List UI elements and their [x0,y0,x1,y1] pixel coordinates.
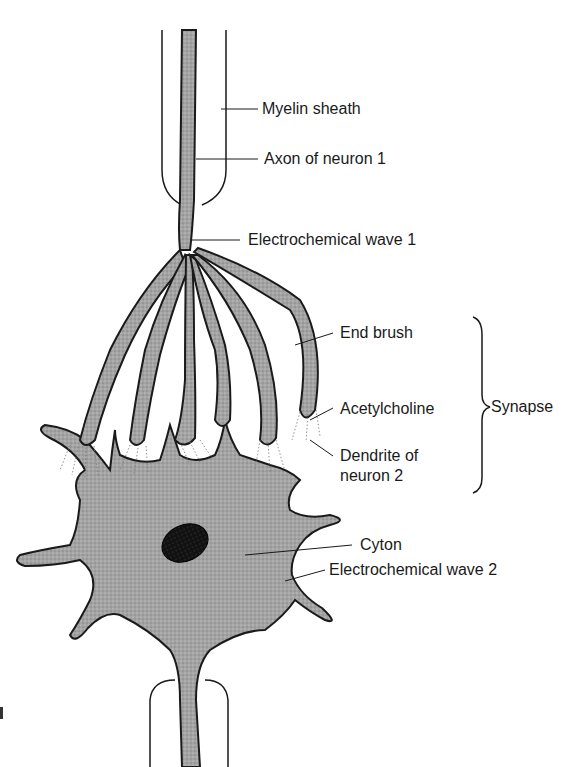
label-end-brush: End brush [340,324,413,342]
label-electrochemical-wave-2: Electrochemical wave 2 [329,561,497,579]
label-dendrite-neuron-2: Dendrite of neuron 2 [340,446,418,486]
scan-edge-mark [0,707,3,719]
label-cyton: Cyton [360,536,402,554]
label-electrochemical-wave-1: Electrochemical wave 1 [248,231,416,249]
cyton-cell-body [17,420,340,767]
synapse-bracket [473,317,490,493]
label-myelin-sheath: Myelin sheath [262,100,361,118]
label-axon-neuron-1: Axon of neuron 1 [264,150,386,168]
label-acetylcholine: Acetylcholine [340,400,434,418]
label-synapse: Synapse [491,398,553,416]
